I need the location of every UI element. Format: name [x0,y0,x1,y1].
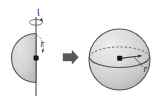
center-dot-right [117,56,122,61]
figure-container: l r [0,0,157,105]
transform-arrow [63,50,79,64]
geometry-figure: l r [0,0,157,105]
left-panel-half-disk: l r [11,7,44,96]
center-dot-left [34,56,39,61]
radius-label-left: r [41,39,45,49]
half-disk-shape [11,33,36,82]
axis-label-l: l [36,7,41,18]
right-panel-sphere: r [89,29,150,90]
radius-label-right: r [144,64,148,74]
